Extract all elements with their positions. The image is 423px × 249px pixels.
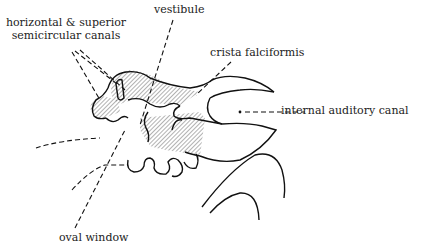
cochlea-outline	[128, 154, 198, 177]
semicircular-leader-3	[80, 50, 125, 90]
dashed-curve-left	[36, 138, 100, 148]
label-internal-auditory-canal: internal auditory canal	[281, 104, 409, 117]
dashed-curve-lower	[72, 165, 128, 190]
label-oval-window: oval window	[59, 231, 129, 244]
label-vestibule: vestibule	[154, 3, 204, 16]
label-semicircular-line2: semicircular canals	[2, 29, 130, 42]
label-crista-falciformis: crista falciformis	[210, 46, 304, 59]
iac-dot	[239, 111, 242, 114]
oval-window-leader	[75, 130, 125, 228]
vestibule-leader	[140, 20, 173, 125]
label-semicircular-canals: horizontal & superior semicircular canal…	[2, 16, 130, 42]
diagram-canvas: horizontal & superior semicircular canal…	[0, 0, 423, 249]
crista-leader	[196, 62, 231, 95]
semicircular-leader-1	[72, 52, 100, 100]
label-semicircular-line1: horizontal & superior	[2, 16, 130, 29]
